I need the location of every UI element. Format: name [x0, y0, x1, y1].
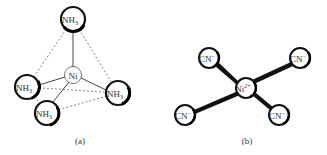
nh3-ligand-bottom: NH3 — [35, 101, 59, 125]
ni2-atom-b: Ni2+ — [235, 78, 256, 98]
nh3-ligand-top: NH3 — [61, 7, 85, 31]
ni-atom-a: Ni — [65, 67, 82, 84]
cn-ligand-bottom-right: CN− — [269, 105, 289, 125]
nh3-ligand-right: NH3 — [106, 81, 130, 105]
diagram-canvas: Ni NH3 NH3 NH3 NH3 (a) — [0, 0, 327, 155]
cn-ligand-top-left: CN− — [199, 48, 219, 68]
nh3-ligand-left: NH3 — [15, 75, 40, 99]
svg-text:Ni: Ni — [69, 71, 78, 81]
cn-ligand-top-right: CN− — [290, 48, 310, 68]
caption-b: (b) — [242, 136, 253, 146]
panel-a: Ni NH3 NH3 NH3 NH3 (a) — [15, 7, 130, 146]
panel-b: Ni2+ CN− CN− CN− CN− (b) — [175, 48, 310, 146]
cn-ligand-bottom-left: CN− — [175, 105, 195, 125]
caption-a: (a) — [75, 136, 85, 146]
